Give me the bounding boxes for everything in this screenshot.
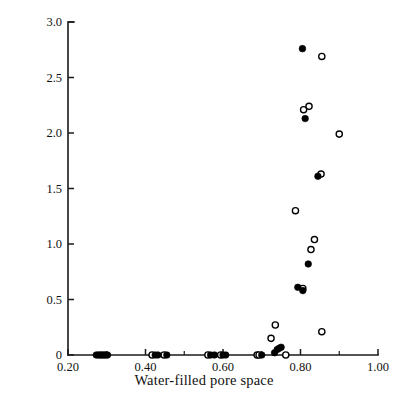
- data-point-filled-10: [164, 352, 171, 359]
- denitrification-scatter-figure: 00.51.01.52.02.53.0 0.200.400.600.801.00…: [0, 0, 408, 400]
- data-points-open-series: [149, 53, 342, 358]
- plot-canvas: [0, 0, 408, 400]
- data-points-filled-series: [93, 45, 321, 358]
- data-point-open-6: [283, 352, 289, 358]
- data-point-filled-24: [302, 115, 309, 122]
- data-point-filled-12: [211, 352, 218, 359]
- data-point-open-18: [319, 53, 325, 59]
- data-point-open-9: [319, 329, 325, 335]
- y-tick-label-1: 1.0: [24, 238, 62, 251]
- data-point-open-17: [306, 103, 312, 109]
- y-tick-label-3: 3.0: [24, 16, 62, 29]
- data-point-open-8: [272, 322, 278, 328]
- axes-group: [68, 22, 378, 355]
- data-point-open-13: [292, 208, 298, 214]
- y-tick-label-1-5: 1.5: [24, 183, 62, 196]
- y-tick-label-2: 2.0: [24, 127, 62, 140]
- data-point-filled-7: [104, 352, 111, 359]
- data-point-filled-22: [305, 261, 312, 268]
- data-point-open-7: [268, 335, 274, 341]
- data-point-filled-21: [300, 287, 307, 294]
- y-tick-label-0-5: 0.5: [24, 294, 62, 307]
- y-tick-label-2-5: 2.5: [24, 72, 62, 85]
- data-point-filled-9: [155, 352, 162, 359]
- data-point-filled-23: [315, 173, 322, 180]
- data-point-open-12: [311, 236, 317, 242]
- data-point-filled-15: [258, 352, 265, 359]
- data-point-filled-25: [299, 45, 306, 52]
- data-point-open-15: [336, 131, 342, 137]
- data-point-filled-14: [222, 352, 229, 359]
- y-axis-ticks: [68, 22, 74, 355]
- data-point-filled-19: [278, 344, 285, 351]
- x-axis-title: Water-filled pore space: [0, 372, 408, 389]
- data-point-open-11: [308, 246, 314, 252]
